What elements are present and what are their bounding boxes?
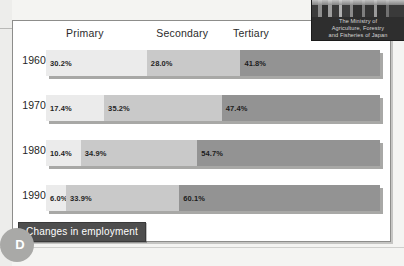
logo-line-1: The Ministry of	[312, 18, 404, 25]
bar-segment-tertiary: 60.1%	[179, 185, 380, 211]
column-header-secondary: Secondary	[156, 27, 208, 39]
segment-value-label: 54.7%	[201, 149, 223, 158]
stacked-bar-1990: 6.0%33.9%60.1%	[46, 185, 380, 211]
section-badge-letter: D	[15, 237, 24, 252]
segment-value-label: 35.2%	[108, 104, 130, 113]
column-header-tertiary: Tertiary	[233, 27, 269, 39]
ministry-building-photo	[312, 0, 404, 17]
segment-value-label: 28.0%	[151, 59, 173, 68]
page-background: PrimarySecondaryTertiary 196030.2%28.0%4…	[0, 0, 404, 266]
bar-segment-primary: 10.4%	[46, 140, 81, 166]
segment-value-label: 47.4%	[226, 104, 248, 113]
chart-figure-frame: PrimarySecondaryTertiary 196030.2%28.0%4…	[12, 20, 391, 242]
logo-line-3: and Fisheries of Japan	[312, 32, 404, 39]
ministry-logo-text: The Ministry of Agriculture, Forestry an…	[312, 17, 404, 40]
segment-value-label: 33.9%	[70, 194, 92, 203]
bar-segment-secondary: 35.2%	[104, 95, 222, 121]
segment-value-label: 30.2%	[50, 59, 72, 68]
segment-value-label: 34.9%	[85, 149, 107, 158]
bar-segment-tertiary: 41.8%	[240, 50, 380, 76]
segment-value-label: 41.8%	[244, 59, 266, 68]
stacked-bar-1980: 10.4%34.9%54.7%	[46, 140, 380, 166]
bar-segment-primary: 30.2%	[46, 50, 147, 76]
year-label-1960: 1960	[19, 54, 46, 66]
photo-sky-gradient	[312, 0, 404, 5]
chart-row: 197017.4%35.2%47.4%	[13, 90, 392, 126]
chart-row: 196030.2%28.0%41.8%	[13, 45, 392, 81]
column-header-primary: Primary	[66, 27, 104, 39]
bar-segment-primary: 6.0%	[46, 185, 66, 211]
bar-segment-secondary: 33.9%	[66, 185, 179, 211]
ministry-logo: The Ministry of Agriculture, Forestry an…	[312, 0, 404, 40]
year-label-1980: 1980	[19, 144, 46, 156]
page-rule-bottom	[0, 247, 404, 248]
bar-segment-secondary: 34.9%	[81, 140, 198, 166]
stacked-bar-1970: 17.4%35.2%47.4%	[46, 95, 380, 121]
segment-value-label: 17.4%	[50, 104, 72, 113]
segment-value-label: 6.0%	[50, 194, 68, 203]
bar-segment-tertiary: 54.7%	[197, 140, 380, 166]
segment-value-label: 10.4%	[50, 149, 72, 158]
year-label-1990: 1990	[19, 189, 46, 201]
section-badge: D	[0, 228, 34, 262]
bar-segment-secondary: 28.0%	[147, 50, 241, 76]
year-label-1970: 1970	[19, 99, 46, 111]
chart-plot-area: 196030.2%28.0%41.8%197017.4%35.2%47.4%19…	[13, 45, 392, 217]
stacked-bar-1960: 30.2%28.0%41.8%	[46, 50, 380, 76]
logo-line-2: Agriculture, Forestry	[312, 25, 404, 32]
bar-segment-primary: 17.4%	[46, 95, 104, 121]
chart-row: 198010.4%34.9%54.7%	[13, 135, 392, 171]
page-left-margin-band	[0, 0, 12, 266]
segment-value-label: 60.1%	[183, 194, 205, 203]
figure-caption: Changes in employment	[18, 222, 146, 242]
chart-row: 19906.0%33.9%60.1%	[13, 180, 392, 216]
bar-segment-tertiary: 47.4%	[222, 95, 380, 121]
